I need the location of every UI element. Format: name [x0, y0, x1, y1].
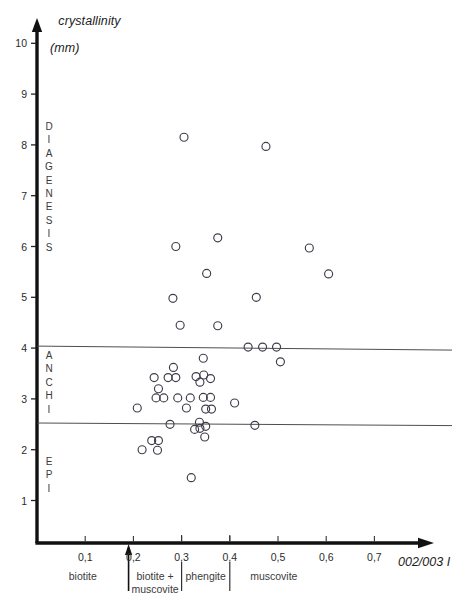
- mineral-zone-label-muscovite: muscovite: [234, 570, 314, 583]
- data-point: [176, 321, 184, 329]
- y-tick-label: 2: [5, 445, 27, 456]
- data-point: [152, 394, 160, 402]
- axis-lines: [31, 18, 434, 548]
- data-point: [251, 421, 259, 429]
- facies-label-anchi: A N C H I: [42, 349, 56, 416]
- data-point: [169, 294, 177, 302]
- data-point: [150, 374, 158, 382]
- data-point: [252, 293, 260, 301]
- data-point: [231, 399, 239, 407]
- y-axis-arrowhead: [32, 18, 42, 32]
- x-axis-arrowhead: [418, 538, 434, 548]
- x-tick-label: 0,3: [167, 552, 197, 563]
- data-point: [262, 142, 270, 150]
- data-point: [199, 354, 207, 362]
- data-point: [207, 405, 215, 413]
- y-tick-label: 6: [5, 242, 27, 253]
- data-point: [174, 394, 182, 402]
- data-point: [154, 446, 162, 454]
- data-point: [214, 322, 222, 330]
- data-point: [305, 244, 313, 252]
- mineral-zone-label-biotite: biotite: [48, 570, 118, 583]
- data-point: [172, 374, 180, 382]
- data-point: [160, 394, 168, 402]
- data-point: [182, 404, 190, 412]
- plot-canvas: [0, 0, 464, 601]
- data-point: [154, 385, 162, 393]
- y-tick-label: 4: [5, 343, 27, 354]
- x-tick-label: 0,4: [215, 552, 245, 563]
- data-points-layer: [133, 133, 332, 481]
- facies-boundary-lines: [37, 346, 452, 426]
- data-point: [203, 269, 211, 277]
- y-tick-label: 10: [5, 38, 27, 49]
- data-point: [196, 378, 204, 386]
- data-point: [180, 133, 188, 141]
- data-point: [201, 433, 209, 441]
- anchi-epi-boundary: [37, 423, 452, 426]
- y-tick-label: 1: [5, 496, 27, 507]
- y-tick-label: 5: [5, 292, 27, 303]
- data-point: [191, 425, 199, 433]
- x-tick-label: 0,5: [263, 552, 293, 563]
- facies-label-epi: E P I: [42, 455, 56, 495]
- data-point: [133, 404, 141, 412]
- data-point: [187, 474, 195, 482]
- x-tick-label: 0,7: [359, 552, 389, 563]
- data-point: [138, 446, 146, 454]
- data-point: [276, 358, 284, 366]
- facies-label-diagenesis: D I A G E N E S I S: [42, 120, 56, 254]
- data-point: [186, 394, 194, 402]
- data-point: [164, 374, 172, 382]
- data-point: [214, 234, 222, 242]
- data-point: [172, 243, 180, 251]
- data-point: [169, 363, 177, 371]
- data-point: [259, 343, 267, 351]
- data-point: [207, 375, 215, 383]
- crystallinity-scatter-figure: crystallinity (mm) 002/003 I 10987654321…: [0, 0, 464, 601]
- y-tick-label: 8: [5, 140, 27, 151]
- x-tick-label: 0,6: [311, 552, 341, 563]
- y-tick-label: 9: [5, 89, 27, 100]
- data-point: [273, 343, 281, 351]
- data-point: [244, 343, 252, 351]
- mineral-zone-label-phengite: phengite: [175, 570, 237, 583]
- x-tick-label: 0,2: [118, 552, 148, 563]
- x-tick-label: 0,1: [70, 552, 100, 563]
- data-point: [192, 373, 200, 381]
- y-tick-label: 7: [5, 191, 27, 202]
- data-point: [325, 270, 333, 278]
- y-tick-label: 3: [5, 394, 27, 405]
